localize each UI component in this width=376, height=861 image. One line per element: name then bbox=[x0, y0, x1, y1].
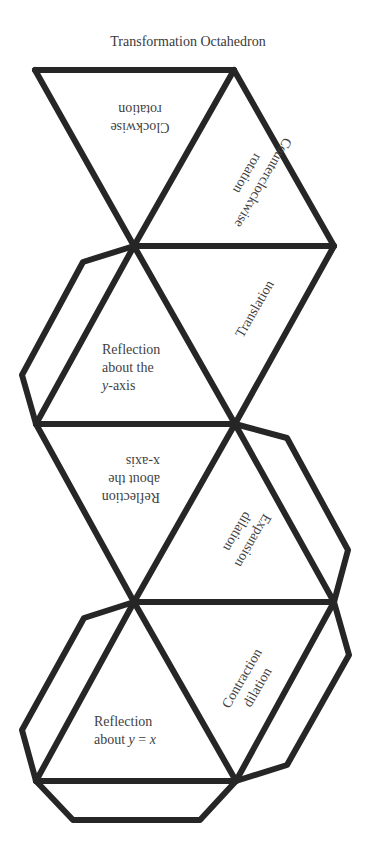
face-label-line: Reflection bbox=[90, 488, 160, 506]
face-label-line: Reflection bbox=[102, 341, 172, 359]
face-label-line: about the bbox=[90, 470, 160, 488]
face-label-line: about the bbox=[102, 359, 172, 377]
face-label-line: x-axis bbox=[90, 452, 160, 470]
math-variable: x bbox=[150, 732, 156, 747]
face-reflection-y-equals-x: Reflection about y = x bbox=[94, 713, 174, 749]
face-label-line: Clockwise bbox=[90, 118, 190, 136]
face-reflection-y-axis: Reflection about the y-axis bbox=[102, 341, 172, 395]
net-edges bbox=[35, 70, 334, 781]
face-label-text: about bbox=[94, 732, 129, 747]
face-reflection-x-axis: Reflection about the x-axis bbox=[90, 452, 160, 506]
face-label-line: Reflection bbox=[94, 713, 174, 731]
math-equals: = bbox=[135, 732, 150, 747]
face-label-line: y-axis bbox=[102, 377, 172, 395]
face-label-line: about y = x bbox=[94, 731, 174, 749]
face-label-text: -axis bbox=[108, 378, 135, 393]
face-clockwise-rotation: Clockwise rotation bbox=[90, 100, 190, 136]
face-label-line: rotation bbox=[90, 100, 190, 118]
